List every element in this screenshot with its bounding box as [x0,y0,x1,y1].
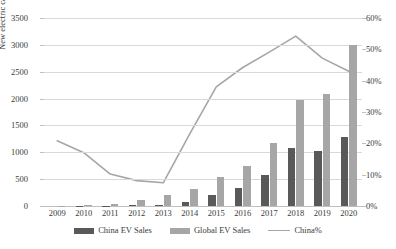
x-axis-tick-label: 2012 [124,209,151,218]
bar-global-ev-sales [217,177,225,206]
legend-label-china-percent: China% [294,226,321,235]
secondary-y-axis-tick-mark [362,175,366,176]
secondary-y-axis-tick-mark [362,112,366,113]
bar-china-ev-sales [235,188,243,206]
legend-swatch-icon-global [170,228,190,234]
secondary-y-axis-tick-label: 50% [366,45,396,54]
bar-china-ev-sales [155,205,163,206]
bar-china-ev-sales [208,195,216,206]
gridline [44,99,362,100]
secondary-y-axis-tick-mark [362,49,366,50]
x-axis-tick-label: 2019 [309,209,336,218]
legend-item-china-ev-sales[interactable]: China EV Sales [74,226,152,235]
y-axis-tick-label: 0 [0,202,28,211]
secondary-y-axis-tick-label: 40% [366,77,396,86]
x-axis-tick-label: 2013 [150,209,177,218]
secondary-y-axis-tick-mark [362,143,366,144]
gridline [44,206,362,207]
secondary-y-axis-tick-label: 30% [366,108,396,117]
bar-global-ev-sales [190,189,198,206]
legend-swatch-icon-china [74,228,94,234]
bar-china-ev-sales [314,151,322,206]
bar-global-ev-sales [349,45,357,206]
bar-china-ev-sales [182,202,190,206]
secondary-y-axis-tick-label: 10% [366,171,396,180]
y-axis-tick-label: 2000 [0,95,28,104]
bar-global-ev-sales [323,94,331,206]
y-axis-tick-label: 500 [0,175,28,184]
y-axis-tick-label: 2500 [0,68,28,77]
gridline [44,72,362,73]
secondary-y-axis-tick-mark [362,81,366,82]
bar-global-ev-sales [296,100,304,206]
bar-global-ev-sales [84,205,92,206]
bar-china-ev-sales [129,205,137,206]
gridline [44,125,362,126]
legend-item-global-ev-sales[interactable]: Global EV Sales [170,226,251,235]
chart-legend: China EV Sales Global EV Sales China% [0,226,396,235]
y-axis-tick-label: 1500 [0,121,28,130]
legend-item-china-percent[interactable]: China% [268,226,321,235]
x-axis-tick-label: 2014 [177,209,204,218]
x-axis-tick-label: 2015 [203,209,230,218]
secondary-y-axis-tick-mark [362,206,366,207]
x-axis-tick-label: 2017 [256,209,283,218]
x-axis-tick-label: 2010 [71,209,98,218]
x-axis-tick-label: 2016 [230,209,257,218]
y-axis-tick-label: 3000 [0,41,28,50]
legend-label-china: China EV Sales [98,226,152,235]
y-axis-tick-label: 3500 [0,14,28,23]
gridline [44,18,362,19]
bar-global-ev-sales [270,143,278,206]
x-axis-tick-label: 2009 [44,209,71,218]
x-axis-tick-label: 2011 [97,209,124,218]
plot-area [44,18,362,206]
secondary-y-axis-tick-label: 20% [366,139,396,148]
gridline [44,45,362,46]
bar-global-ev-sales [164,195,172,206]
secondary-y-axis-tick-mark [362,18,366,19]
bar-global-ev-sales [137,200,145,206]
legend-line-icon-china-percent [268,230,290,231]
x-axis-tick-label: 2020 [336,209,363,218]
legend-label-global: Global EV Sales [194,226,251,235]
bar-china-ev-sales [261,175,269,206]
bar-china-ev-sales [341,137,349,207]
bar-global-ev-sales [111,204,119,206]
secondary-y-axis-tick-label: 60% [366,14,396,23]
chart-container: New electric car sales (000) 05001000150… [0,0,396,249]
bar-china-ev-sales [288,148,296,206]
secondary-y-axis-tick-label: 0% [366,202,396,211]
x-axis-tick-label: 2018 [283,209,310,218]
bar-global-ev-sales [243,166,251,206]
y-axis-tick-label: 1000 [0,148,28,157]
